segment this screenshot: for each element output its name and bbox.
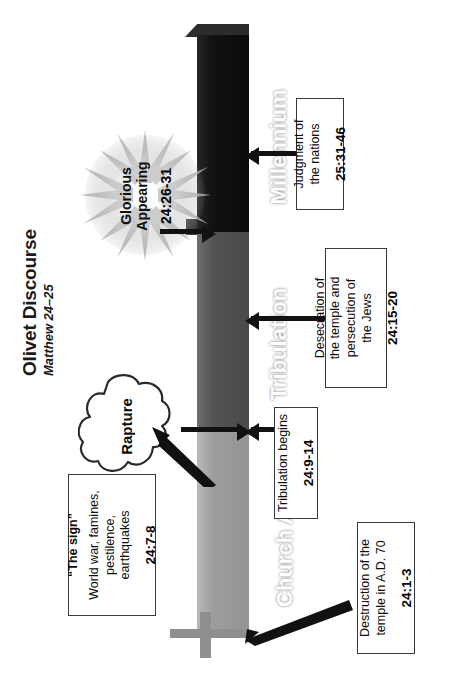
arrow-desecration-of-temple (251, 316, 325, 321)
page-title: Olivet Discourse Matthew 24–25 (8, 156, 68, 376)
callout-judgment-of-nations[interactable]: Judgment of the nations 25:31-46 (296, 98, 344, 210)
callout-reference: 24:15-20 (385, 291, 400, 345)
callout-line: the nations (308, 123, 324, 184)
callout-line: Destruction of the (358, 539, 374, 637)
callout-reference: 24:9-14 (301, 440, 316, 487)
callout-the-sign[interactable]: “The sign” World war, famines, pestilenc… (68, 474, 156, 616)
callout-line: earthquakes (118, 511, 134, 580)
callout-line: the temple and (328, 277, 344, 360)
callout-line: persecution of (344, 279, 360, 358)
arrowhead-tribulation-begins (245, 423, 259, 441)
callout-line: temple in A.D. 70 (374, 540, 390, 635)
cross-icon (170, 612, 248, 658)
arrow-glorious-appearing (160, 229, 202, 234)
glorious-appearing-line1: Glorious (118, 167, 134, 225)
callout-line: Tribulation begins (276, 414, 292, 512)
glorious-appearing-line2: Appearing (134, 161, 150, 230)
callout-line: World war, famines, (87, 490, 103, 600)
arrowhead-glorious-appearing (202, 225, 216, 243)
diagram-canvas: Olivet Discourse Matthew 24–25 Millenniu… (0, 0, 454, 690)
segment-label-millennium: Millennium (266, 89, 292, 204)
title-main: Olivet Discourse (20, 229, 40, 376)
callout-line: pestilence, (103, 515, 119, 575)
callout-reference: 25:31-46 (333, 127, 348, 181)
arrowhead-desecration-of-temple (245, 312, 259, 330)
callout-tribulation-begins[interactable]: Tribulation begins 24:9-14 (274, 407, 318, 519)
arrow-the-sign (150, 425, 218, 487)
title-subtitle: Matthew 24–25 (41, 284, 56, 376)
callout-destruction-of-temple[interactable]: Destruction of the temple in A.D. 70 24:… (357, 522, 415, 654)
callout-reference: 24:1-3 (399, 568, 414, 607)
arrowhead-judgment-of-nations (245, 147, 259, 165)
callout-heading: “The sign” (66, 513, 80, 577)
glorious-appearing-reference: 24:26-31 (158, 168, 174, 224)
arrow-destruction-of-temple (245, 596, 360, 646)
segment-label-tribulation: Tribulation (266, 288, 292, 400)
callout-line: the Jews (360, 293, 376, 342)
callout-desecration-of-temple[interactable]: Desecration of the temple and persecutio… (325, 248, 387, 388)
callout-reference: 24:7-8 (143, 525, 158, 564)
